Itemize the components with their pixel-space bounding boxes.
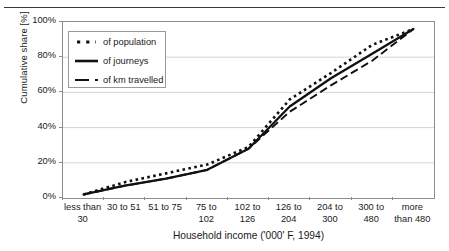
y-axis-tick-label: 100% [26, 15, 56, 25]
y-axis-tick-label: 20% [26, 156, 56, 166]
chart-legend: of populationof journeysof km travelled [68, 31, 166, 88]
legend-key-solid-icon [75, 55, 100, 67]
y-axis-tick-label: 0% [26, 191, 56, 201]
legend-item: of journeys [69, 51, 167, 70]
x-axis-tick-mark [227, 197, 228, 200]
x-axis-tick-mark [351, 197, 352, 200]
x-axis-tick-mark [268, 197, 269, 200]
x-axis-tick-mark [392, 197, 393, 200]
legend-item-label: of journeys [103, 56, 148, 66]
legend-key-dashed-icon [75, 74, 100, 86]
legend-item-label: of population [103, 37, 156, 47]
legend-key-dotted-icon [75, 36, 100, 48]
cumulative-share-chart-figure: Cumulative share [%] 0%20%40%60%80%100% … [0, 0, 449, 251]
y-axis-tick-label: 40% [26, 121, 56, 131]
legend-item-label: of km travelled [103, 75, 163, 85]
x-axis-tick-mark [186, 197, 187, 200]
x-axis-tick-label-line: more [383, 202, 442, 214]
x-axis-tick-mark [144, 197, 145, 200]
x-axis-tick-label: morethan 480 [383, 202, 442, 225]
legend-item: of km travelled [69, 70, 167, 89]
x-axis-tick-mark [309, 197, 310, 200]
x-axis-tick-mark [62, 197, 63, 200]
y-axis-tick-label: 80% [26, 50, 56, 60]
y-axis-tick-label: 60% [26, 85, 56, 95]
x-axis-title: Household income ('000' F, 1994) [62, 230, 435, 241]
x-axis-tick-label-line: 30 [53, 214, 112, 226]
header-divider-rule [4, 7, 445, 8]
x-axis-tick-mark [103, 197, 104, 200]
x-axis-tick-label-line: than 480 [383, 214, 442, 226]
legend-item: of population [69, 32, 167, 51]
